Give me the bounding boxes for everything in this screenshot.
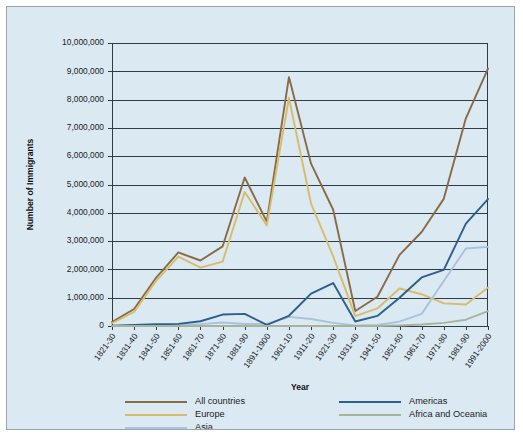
legend-label-asia: Asia [195,422,214,429]
y-tick-label: 1,000,000 [67,292,105,302]
legend-label-africa-and-oceania: Africa and Oceania [409,409,488,419]
x-axis-title: Year [291,382,310,392]
series-line-all-countries [112,69,488,322]
series-line-europe [112,98,488,323]
legend-label-all-countries: All countries [195,396,245,406]
y-tick-label: 3,000,000 [67,235,105,245]
x-axis-tick-labels: 1821-301831-401841-501851-601861-701871-… [92,331,494,370]
y-tick-label: 0 [99,320,104,330]
y-tick-label: 9,000,000 [67,66,105,76]
y-axis-tick-labels: 01,000,0002,000,0003,000,0004,000,0005,0… [62,37,104,330]
chart-legend: All countriesEuropeAsiaAmericasAfrica an… [125,396,488,429]
y-tick-label: 8,000,000 [67,94,105,104]
y-tick-label: 7,000,000 [67,122,105,132]
y-tick-label: 5,000,000 [67,179,105,189]
chart-figure: 01,000,0002,000,0003,000,0004,000,0005,0… [6,6,515,430]
y-tick-label: 10,000,000 [62,37,104,47]
legend-label-americas: Americas [409,396,448,406]
y-tick-label: 6,000,000 [67,150,105,160]
axis-lines [112,43,488,327]
legend-label-europe: Europe [195,409,225,419]
series-line-asia [112,247,488,326]
y-axis-title: Number of Immigrants [25,138,35,230]
x-tick-label: 1901-10 [269,331,295,362]
data-series [112,69,488,326]
y-tick-label: 2,000,000 [67,264,105,274]
immigration-line-chart: 01,000,0002,000,0003,000,0004,000,0005,0… [7,7,514,429]
y-tick-label: 4,000,000 [67,207,105,217]
axis-tickmarks [108,44,489,331]
